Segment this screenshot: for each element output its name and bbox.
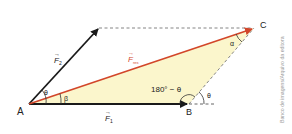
point-label-c: C xyxy=(260,20,267,30)
angle-label-theta-a: θ xyxy=(44,89,48,96)
svg-text:→: → xyxy=(128,50,134,56)
svg-text:res: res xyxy=(133,60,139,65)
angle-label-beta: β xyxy=(64,95,68,103)
svg-text:1: 1 xyxy=(110,118,113,124)
image-credit: Banco de imagens/Arquivo da editora xyxy=(279,36,285,123)
label-f2: F 2 → xyxy=(54,51,62,66)
angle-arc-theta-b xyxy=(199,92,204,104)
point-label-a: A xyxy=(17,106,24,117)
angle-label-theta-b: θ xyxy=(207,92,211,99)
angle-label-alpha: α xyxy=(230,40,234,47)
angle-label-supplement: 180° − θ xyxy=(151,85,182,94)
svg-text:→: → xyxy=(105,109,111,115)
svg-text:→: → xyxy=(54,51,60,57)
label-fres: F res → xyxy=(128,50,139,65)
vector-diagram: A B C F 2 → F res → F 1 → θ β 180° − θ θ… xyxy=(0,0,292,134)
point-label-b: B xyxy=(186,107,192,117)
svg-text:2: 2 xyxy=(59,60,62,66)
label-f1: F 1 → xyxy=(105,109,113,124)
